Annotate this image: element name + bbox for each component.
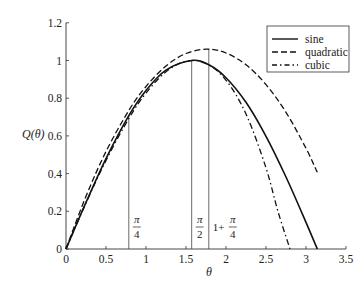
y-tick-label: 1 [56, 55, 62, 67]
series-cubic [66, 60, 290, 249]
reference-label-prefix: 1+ [213, 221, 225, 233]
reference-label: π4 [133, 213, 141, 240]
x-tick-label: 3 [303, 253, 309, 265]
fraction-denominator: 2 [197, 228, 203, 240]
fraction-numerator: π [230, 213, 236, 225]
reference-label: 1+π4 [213, 213, 237, 240]
x-tick-label: 1.5 [179, 253, 194, 265]
legend: sinequadraticcubic [267, 26, 349, 72]
y-axis-label: Q(θ) [22, 127, 45, 141]
legend-label-quadratic: quadratic [305, 46, 348, 59]
fraction-numerator: π [134, 213, 140, 225]
x-tick-label: 1 [143, 253, 149, 265]
reference-label: π2 [196, 213, 204, 240]
y-tick-label: 0.4 [48, 168, 63, 180]
line-chart: 00.511.522.533.500.20.40.60.811.2 π4π21+… [0, 0, 364, 287]
legend-label-sine: sine [305, 33, 324, 45]
x-tick-label: 3.5 [339, 253, 354, 265]
x-tick-label: 2 [223, 253, 229, 265]
y-tick-label: 0.2 [48, 205, 63, 217]
y-tick-label: 1.2 [48, 17, 63, 29]
fraction-denominator: 4 [230, 228, 236, 240]
fraction-denominator: 4 [134, 228, 140, 240]
x-tick-label: 2.5 [259, 253, 274, 265]
annotations: π4π21+π4 [129, 49, 237, 249]
y-tick-label: 0.6 [48, 130, 63, 142]
y-tick-label: 0 [56, 243, 62, 255]
x-tick-label: 0.5 [99, 253, 114, 265]
chart-container: 00.511.522.533.500.20.40.60.811.2 π4π21+… [0, 0, 364, 287]
y-tick-label: 0.8 [48, 92, 63, 104]
fraction-numerator: π [197, 213, 203, 225]
x-tick-label: 0 [63, 253, 69, 265]
legend-label-cubic: cubic [305, 59, 330, 71]
x-axis-label: θ [206, 265, 212, 279]
